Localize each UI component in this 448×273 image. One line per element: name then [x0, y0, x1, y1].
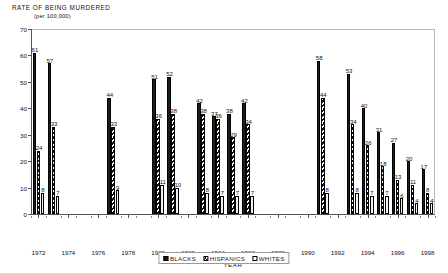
legend-item-blacks: BLACKS — [163, 255, 196, 262]
x-tick-mark — [248, 215, 249, 218]
bar-hispanics-1994: 26 — [366, 145, 370, 214]
bar-value-label: 4 — [430, 198, 433, 204]
bar-value-label: 20 — [406, 156, 413, 162]
bar-blacks-1980: 51 — [152, 79, 156, 214]
chart-title: RATE OF BEING MURDERED — [12, 5, 110, 12]
x-minor-tick-mark — [360, 216, 361, 218]
bar-value-label: 53 — [346, 68, 353, 74]
bar-hispanics-1981: 38 — [171, 114, 175, 214]
y-tick-label: 10 — [20, 184, 27, 191]
y-tick-label: 40 — [20, 105, 27, 112]
x-tick-mark — [308, 215, 309, 218]
bar-value-label: 57 — [47, 58, 54, 64]
y-tick-label: 70 — [20, 26, 27, 33]
bar-hispanics-1972: 24 — [37, 151, 41, 214]
bar-value-label: 33 — [51, 121, 58, 127]
bar-hispanics-1983: 38 — [201, 114, 205, 214]
x-tick-label: 1972 — [32, 249, 46, 256]
x-minor-tick-mark — [181, 216, 182, 218]
x-minor-tick-mark — [136, 216, 137, 218]
bar-value-label: 38 — [170, 108, 177, 114]
x-minor-tick-mark — [315, 216, 316, 218]
bar-value-label: 10 — [174, 182, 181, 188]
bar-value-label: 8 — [325, 187, 328, 193]
bar-whites-1980: 11 — [160, 185, 164, 214]
x-minor-tick-mark — [405, 216, 406, 218]
bar-value-label: 7 — [236, 190, 239, 196]
y-tick-label: 30 — [20, 131, 27, 138]
bar-blacks-1977: 44 — [107, 98, 111, 214]
bar-hispanics-1986: 34 — [246, 124, 250, 214]
x-minor-tick-mark — [345, 216, 346, 218]
x-minor-tick-mark — [300, 216, 301, 218]
bar-hispanics-1997: 11 — [411, 185, 415, 214]
x-tick-label: 1974 — [62, 249, 76, 256]
bar-value-label: 11 — [410, 179, 416, 185]
bar-blacks-1991: 58 — [317, 61, 321, 214]
x-minor-tick-mark — [375, 216, 376, 218]
bar-value-label: 44 — [106, 92, 113, 98]
bar-whites-1983: 8 — [205, 193, 209, 214]
legend-label-whites: WHITES — [259, 255, 285, 262]
legend-item-whites: WHITES — [252, 255, 284, 262]
bar-value-label: 4 — [415, 198, 418, 204]
bar-value-label: 42 — [241, 98, 248, 104]
bar-value-label: 52 — [166, 71, 173, 77]
bar-whites-1986: 7 — [250, 196, 254, 215]
bar-value-label: 8 — [355, 187, 358, 193]
bar-hispanics-1991: 44 — [321, 98, 325, 214]
x-minor-tick-mark — [240, 216, 241, 218]
bar-value-label: 7 — [385, 190, 388, 196]
y-tick-mark — [28, 55, 31, 56]
bar-value-label: 27 — [391, 137, 398, 143]
plot-area: 010203040506070 197219741976197819801982… — [31, 29, 435, 215]
x-tick-mark — [368, 215, 369, 218]
x-tick-label: 1990 — [301, 249, 315, 256]
y-tick-label: 60 — [20, 52, 27, 59]
x-minor-tick-mark — [420, 216, 421, 218]
bar-value-label: 26 — [365, 140, 372, 146]
bar-value-label: 17 — [421, 164, 428, 170]
x-minor-tick-mark — [255, 216, 256, 218]
bar-blacks-1983: 42 — [197, 103, 201, 214]
y-tick-label: 0 — [24, 211, 27, 218]
bar-value-label: 29 — [230, 132, 237, 138]
bar-hispanics-1993: 34 — [351, 124, 355, 214]
x-tick-mark — [68, 215, 69, 218]
murder-rate-bar-chart: RATE OF BEING MURDERED (per 100,000) 010… — [0, 0, 448, 273]
bar-value-label: 6 — [400, 193, 403, 199]
x-tick-label: 1976 — [91, 249, 105, 256]
bar-hispanics-1985: 29 — [231, 137, 235, 214]
bar-whites-1973: 7 — [56, 196, 60, 215]
bar-value-label: 13 — [395, 174, 402, 180]
bar-value-label: 8 — [426, 187, 429, 193]
x-tick-mark — [428, 215, 429, 218]
bar-value-label: 7 — [370, 190, 373, 196]
bar-value-label: 44 — [320, 92, 327, 98]
chart-legend: BLACKS HISPANICS WHITES — [158, 252, 289, 264]
y-tick-mark — [28, 108, 31, 109]
solid-black-swatch-icon — [163, 256, 168, 261]
x-minor-tick-mark — [91, 216, 92, 218]
bar-whites-1972: 8 — [41, 193, 45, 214]
bar-value-label: 7 — [251, 190, 254, 196]
open-white-swatch-icon — [252, 256, 257, 261]
x-minor-tick-mark — [76, 216, 77, 218]
bar-blacks-1997: 20 — [407, 161, 411, 214]
bar-whites-1995: 7 — [385, 196, 389, 215]
bar-value-label: 36 — [155, 113, 162, 119]
x-tick-label: 1978 — [121, 249, 135, 256]
bar-value-label: 58 — [316, 55, 323, 61]
bar-value-label: 34 — [350, 119, 357, 125]
bar-value-label: 8 — [41, 187, 44, 193]
chart-title-block: RATE OF BEING MURDERED (per 100,000) — [12, 5, 110, 19]
hatched-swatch-icon — [203, 256, 208, 261]
x-tick-mark — [218, 215, 219, 218]
y-tick-mark — [28, 82, 31, 83]
bar-value-label: 24 — [36, 145, 43, 151]
bar-whites-1985: 7 — [235, 196, 239, 215]
x-tick-label: 1998 — [421, 249, 435, 256]
legend-item-hispanics: HISPANICS — [203, 255, 245, 262]
bar-hispanics-1995: 18 — [381, 166, 385, 214]
x-minor-tick-mark — [61, 216, 62, 218]
